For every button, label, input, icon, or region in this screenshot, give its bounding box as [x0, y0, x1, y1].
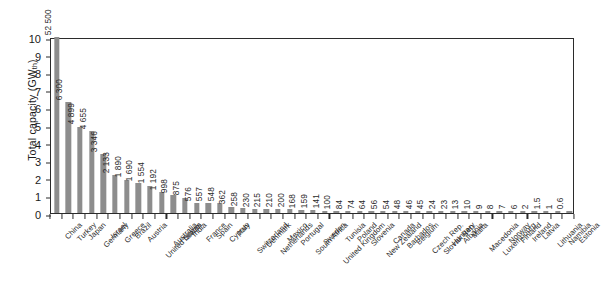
bar-slot: 6 300: [63, 39, 75, 213]
x-axis-tick-mark: [422, 214, 423, 219]
bar-value-label: 23: [440, 200, 448, 209]
bar[interactable]: [357, 211, 362, 213]
x-axis-tick-mark: [329, 214, 330, 219]
bar-slot: 74: [354, 39, 366, 213]
bar-value-label: 10: [463, 200, 471, 209]
x-axis-tick-mark: [457, 214, 458, 219]
bar[interactable]: [136, 183, 141, 213]
bar[interactable]: [345, 211, 350, 213]
bar[interactable]: [112, 175, 117, 213]
bar[interactable]: [229, 207, 234, 213]
x-axis-tick-mark: [282, 214, 283, 219]
y-axis-tick-mark: [46, 92, 51, 93]
bar[interactable]: [369, 211, 374, 213]
x-axis-tick-mark: [434, 214, 435, 219]
y-axis-tick-label: 10: [25, 34, 46, 45]
bar[interactable]: [334, 211, 339, 213]
bar[interactable]: [380, 211, 385, 213]
bar[interactable]: [392, 211, 397, 213]
bar[interactable]: [159, 192, 164, 213]
bar[interactable]: [206, 203, 211, 213]
bar-value-label: 2 133: [102, 152, 110, 173]
bar[interactable]: [555, 211, 560, 213]
bar[interactable]: [415, 211, 420, 213]
bar[interactable]: [240, 208, 245, 213]
bar[interactable]: [264, 209, 269, 213]
bar-value-label: 258: [230, 192, 238, 206]
x-axis-tick-mark: [259, 214, 260, 219]
bar-slot: 200: [284, 39, 296, 213]
bar-value-label: 24: [428, 200, 436, 209]
bar-value-label: 64: [358, 200, 366, 209]
y-axis-tick-label: 1: [25, 192, 46, 203]
x-axis-tick-mark: [154, 214, 155, 219]
x-axis-tick-mark: [119, 214, 120, 219]
y-axis-tick-label: 2: [25, 174, 46, 185]
bar-value-label: 56: [370, 200, 378, 209]
y-axis-tick-mark: [46, 162, 51, 163]
bar[interactable]: [275, 209, 280, 213]
bar[interactable]: [473, 211, 478, 213]
bar[interactable]: [485, 211, 490, 213]
x-axis-tick-mark: [375, 214, 376, 219]
bar-slot: 13: [459, 39, 471, 213]
x-axis-tick-mark: [271, 214, 272, 219]
bar[interactable]: [543, 211, 548, 213]
x-axis-tick-mark: [515, 214, 516, 219]
bar-value-label: 6 300: [56, 79, 64, 100]
bar[interactable]: [322, 211, 327, 213]
bar[interactable]: [427, 211, 432, 213]
bar[interactable]: [462, 211, 467, 213]
y-axis-tick: 8: [25, 69, 51, 80]
y-axis-tick-label: 0: [25, 210, 46, 221]
bar[interactable]: [252, 209, 257, 213]
bar-value-label: 13: [452, 200, 460, 209]
y-axis-tick: 6: [25, 104, 51, 115]
bar[interactable]: [310, 210, 315, 213]
x-axis-tick-mark: [573, 214, 574, 219]
bar[interactable]: [287, 209, 292, 213]
bar[interactable]: [194, 203, 199, 213]
x-axis-tick-mark: [399, 214, 400, 219]
bar-slot: 24: [435, 39, 447, 213]
y-axis-tick-mark: [46, 74, 51, 75]
bar[interactable]: [566, 211, 571, 213]
bar-value-label: 1 192: [149, 169, 157, 190]
x-axis-tick-mark: [61, 214, 62, 219]
x-axis-tick-mark: [108, 214, 109, 219]
bar[interactable]: [438, 211, 443, 213]
bar-value-label: 576: [184, 187, 192, 201]
bar-slot: 0.6: [563, 39, 575, 213]
x-axis-tick-mark: [550, 214, 551, 219]
bar[interactable]: [497, 211, 502, 213]
x-axis-tick-mark: [96, 214, 97, 219]
bar[interactable]: [171, 195, 176, 213]
bar-slot: 100: [330, 39, 342, 213]
y-axis-tick-mark: [46, 127, 51, 128]
bar-value-label: 0.6: [556, 198, 564, 210]
bar[interactable]: [532, 211, 537, 213]
bar[interactable]: [124, 180, 129, 213]
bar[interactable]: [54, 37, 59, 213]
x-axis-tick-mark: [504, 214, 505, 219]
bar-value-label: 168: [289, 194, 297, 208]
bar-value-label: 3 346: [91, 131, 99, 152]
bar[interactable]: [520, 211, 525, 213]
bar-value-label: 100: [323, 195, 331, 209]
bar[interactable]: [299, 210, 304, 213]
bar[interactable]: [217, 203, 222, 213]
bar-slot: 52 500: [51, 39, 63, 213]
y-axis-tick-label: 6: [25, 104, 46, 115]
bar[interactable]: [450, 211, 455, 213]
bar-slot: 6: [517, 39, 529, 213]
bar-value-label: 46: [405, 200, 413, 209]
y-axis-tick-mark: [46, 145, 51, 146]
y-axis-tick-label: 3: [25, 157, 46, 168]
y-axis-tick: 4: [25, 139, 51, 150]
bar[interactable]: [77, 127, 82, 213]
bar[interactable]: [508, 211, 513, 213]
bar-slot: 215: [261, 39, 273, 213]
bar-slot: 10: [470, 39, 482, 213]
bar[interactable]: [403, 211, 408, 213]
